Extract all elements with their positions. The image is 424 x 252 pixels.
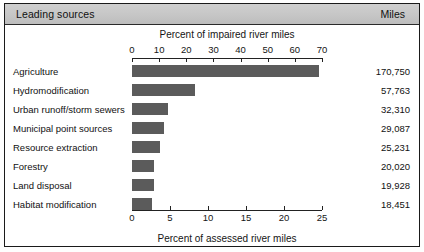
chart-bar [132,179,154,191]
top-axis-tick-label: 10 [154,44,165,55]
chart-row: Land disposal19,928 [0,176,424,195]
chart-bar [132,122,164,134]
chart-row: Habitat modification18,451 [0,195,424,214]
chart-row: Hydromodification57,763 [0,81,424,100]
chart-bar [132,160,154,172]
row-miles-value: 29,087 [381,123,410,134]
chart-row: Resource extraction25,231 [0,138,424,157]
row-category-label: Land disposal [13,180,72,191]
top-axis-title: Percent of impaired river miles [132,29,322,40]
top-axis-tick-label: 70 [317,44,328,55]
row-miles-value: 20,020 [381,161,410,172]
chart-row: Forestry20,020 [0,157,424,176]
row-miles-value: 18,451 [381,199,410,210]
bottom-axis-title: Percent of assessed river miles [132,233,322,244]
chart-bar [132,84,195,96]
row-miles-value: 170,750 [376,66,410,77]
row-category-label: Municipal point sources [13,123,112,134]
row-category-label: Agriculture [13,66,58,77]
row-category-label: Forestry [13,161,48,172]
chart-bar [132,65,319,77]
top-axis-tick-label: 60 [290,44,301,55]
row-miles-value: 25,231 [381,142,410,153]
row-miles-value: 57,763 [381,85,410,96]
top-axis-tick-label: 0 [129,44,134,55]
row-category-label: Urban runoff/storm sewers [13,104,125,115]
chart-bar [132,198,152,210]
row-category-label: Hydromodification [13,85,89,96]
row-miles-value: 32,310 [381,104,410,115]
top-axis-tick-label: 40 [235,44,246,55]
chart-figure: Leading sources Miles Percent of impaire… [0,0,424,252]
chart-bar [132,141,160,153]
row-category-label: Habitat modification [13,199,96,210]
chart-row: Agriculture170,750 [0,62,424,81]
row-miles-value: 19,928 [381,180,410,191]
chart-row: Urban runoff/storm sewers32,310 [0,100,424,119]
top-axis-tick-label: 20 [181,44,192,55]
chart-row: Municipal point sources29,087 [0,119,424,138]
row-category-label: Resource extraction [13,142,97,153]
top-axis-tick-label: 50 [262,44,273,55]
chart-bar [132,103,168,115]
top-axis-line [132,58,322,59]
top-axis-tick-label: 30 [208,44,219,55]
